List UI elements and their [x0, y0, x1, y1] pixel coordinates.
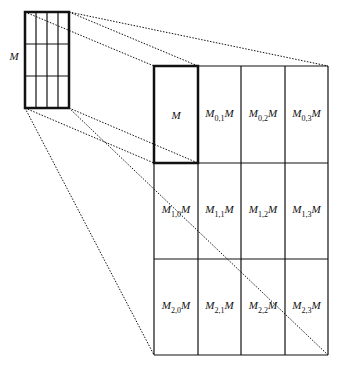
grid-cell-label: M2,1M: [205, 299, 233, 314]
small-matrix-label: M: [9, 50, 18, 62]
grid-cell-label: M2,2M: [249, 299, 277, 314]
grid-cell-label: M1,2M: [249, 203, 277, 218]
grid-cell-label: M2,3M: [292, 299, 320, 314]
grid-cell-label: M0,1M: [205, 107, 233, 122]
grid-cell-label: M0,2M: [249, 107, 277, 122]
projection-line: [69, 12, 328, 66]
grid-cell-label: M0,3M: [292, 107, 320, 122]
grid-cell-label: M1,1M: [205, 203, 233, 218]
grid-cell-label: M: [171, 109, 180, 121]
grid-cell-label: M1,3M: [292, 203, 320, 218]
grid-cell-label: M2,0M: [162, 299, 190, 314]
projection-line: [25, 108, 154, 355]
grid-cell-label: M1,0M: [162, 203, 190, 218]
